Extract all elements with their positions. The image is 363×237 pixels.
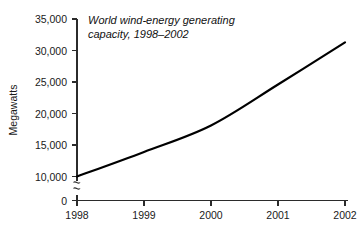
axis-break-icon — [74, 182, 81, 189]
x-tick-label-1998: 1998 — [65, 209, 89, 221]
y-tick-label-30000: 30,000 — [35, 45, 67, 57]
x-tick-label-2001: 2001 — [266, 209, 290, 221]
y-tick-label-20000: 20,000 — [35, 108, 67, 120]
x-tick-label-2002: 2002 — [333, 209, 357, 221]
data-series-line — [77, 42, 345, 176]
y-tick-label-0: 0 — [61, 195, 67, 207]
y-tick-label-15000: 15,000 — [35, 139, 67, 151]
x-tick-label-1999: 1999 — [132, 209, 156, 221]
chart-canvas: World wind-energy generating capacity, 1… — [0, 0, 363, 237]
x-tick-label-2000: 2000 — [199, 209, 223, 221]
chart-title-line-1: World wind-energy generating — [88, 14, 236, 26]
y-tick-label-35000: 35,000 — [35, 13, 67, 25]
wind-energy-line-chart: World wind-energy generating capacity, 1… — [0, 0, 363, 237]
y-tick-label-10000: 10,000 — [35, 171, 67, 183]
chart-title-line-2: capacity, 1998–2002 — [88, 28, 189, 40]
y-tick-label-25000: 25,000 — [35, 76, 67, 88]
y-axis-title: Megawatts — [7, 85, 19, 136]
